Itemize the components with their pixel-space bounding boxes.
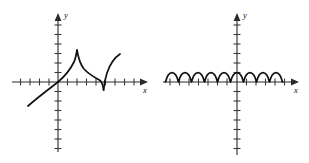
figure-root: y x	[0, 0, 309, 163]
left-curve-branch-rising	[58, 50, 77, 82]
right-y-axis-arrow-icon	[234, 13, 241, 21]
left-x-axis	[12, 79, 148, 86]
left-curve-branch-decay	[77, 50, 104, 90]
left-graph-svg: y x	[0, 0, 155, 163]
left-x-axis-label: x	[142, 85, 147, 95]
left-y-axis-label: y	[63, 10, 68, 20]
right-x-axis-label: x	[293, 85, 298, 95]
left-curve	[28, 50, 120, 106]
right-graph-svg: y x	[155, 0, 309, 163]
left-curve-branch-steep-right	[104, 54, 120, 90]
right-y-axis-label: y	[242, 10, 247, 20]
left-curve-branch-lower-left	[28, 82, 58, 106]
plot-panel-right: y x	[155, 0, 309, 163]
plot-panel-left: y x	[0, 0, 155, 163]
left-y-axis-arrow-icon	[55, 13, 62, 21]
